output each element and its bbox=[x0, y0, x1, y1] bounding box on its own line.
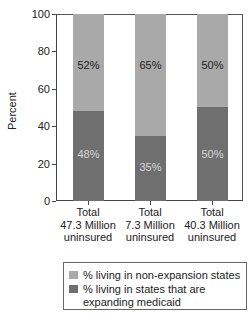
y-tick-label: 100 bbox=[22, 8, 50, 20]
y-tick-label: 0 bbox=[22, 195, 50, 207]
bar-group-2: 65% 35% bbox=[135, 14, 166, 201]
y-tick-mark bbox=[52, 201, 56, 202]
y-tick-label: 60 bbox=[22, 83, 50, 95]
y-tick-label: 20 bbox=[22, 158, 50, 170]
legend-swatch-dark bbox=[69, 285, 78, 293]
x-tick-mark bbox=[88, 201, 89, 205]
x-category-label: Total 7.3 Million uninsured bbox=[115, 206, 185, 244]
bar-value-label: 35% bbox=[125, 161, 176, 173]
x-category-label: Total 47.3 Million uninsured bbox=[53, 206, 123, 244]
bar-value-label: 52% bbox=[63, 59, 114, 71]
stacked-bar-chart: Percent 0 20 40 60 80 100 52% 48% 65% 35… bbox=[0, 0, 252, 315]
bar-value-label: 50% bbox=[187, 148, 238, 160]
x-tick-mark bbox=[212, 201, 213, 205]
x-tick-mark bbox=[150, 201, 151, 205]
legend-swatch-light bbox=[69, 271, 78, 279]
bar-value-label: 65% bbox=[125, 59, 176, 71]
bar-value-label: 48% bbox=[63, 148, 114, 160]
bar-group-1: 52% 48% bbox=[73, 14, 104, 201]
y-tick-label: 80 bbox=[22, 45, 50, 57]
y-axis-label: Percent bbox=[2, 110, 22, 130]
y-tick-label: 40 bbox=[22, 120, 50, 132]
x-category-label: Total 40.3 Million uninsured bbox=[177, 206, 247, 244]
bar-segment-non-expansion bbox=[135, 14, 166, 136]
bar-value-label: 50% bbox=[187, 59, 238, 71]
bar-group-3: 50% 50% bbox=[197, 14, 228, 201]
legend: % living in non-expansion states % livin… bbox=[63, 262, 247, 310]
